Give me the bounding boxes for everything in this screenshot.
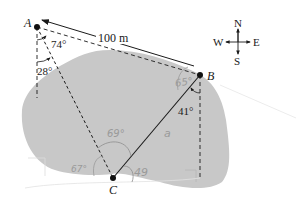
angle-A-74: 74°	[51, 38, 66, 50]
land-region	[22, 50, 229, 188]
compass-icon: N S W E	[213, 17, 260, 67]
compass-N: N	[234, 17, 242, 29]
point-B	[197, 72, 203, 78]
pencil-angle-49: 49	[134, 166, 148, 179]
pencil-angle-69: 69°	[107, 128, 125, 139]
label-B: B	[207, 69, 215, 83]
angle-B-41: 41°	[178, 105, 193, 117]
label-C: C	[109, 183, 118, 197]
side-a-label: a	[164, 127, 171, 140]
triangulation-diagram: 100 m 74° 28° 41° 65° 69° 67° 49 a A B C…	[0, 0, 296, 201]
compass-S: S	[234, 55, 240, 67]
point-C	[110, 175, 116, 181]
compass-E: E	[253, 36, 260, 48]
pencil-angle-67: 67°	[71, 164, 87, 174]
label-A: A	[23, 16, 32, 30]
angle-A-28: 28°	[37, 65, 52, 77]
point-A	[34, 24, 40, 30]
compass-W: W	[213, 36, 224, 48]
distance-label: 100 m	[98, 31, 129, 45]
